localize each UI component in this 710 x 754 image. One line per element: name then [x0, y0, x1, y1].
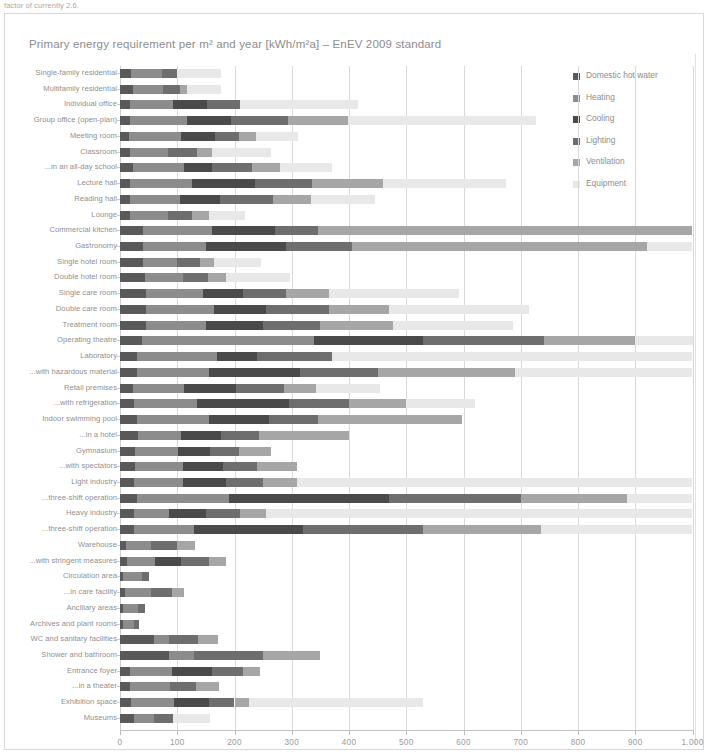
- bar-row[interactable]: [120, 588, 184, 597]
- bar-row[interactable]: [120, 572, 149, 581]
- y-tick: [117, 340, 120, 341]
- bar-row[interactable]: [120, 399, 475, 408]
- bar-row[interactable]: [120, 258, 261, 267]
- x-axis-label: 100: [157, 738, 197, 747]
- bar-segment: [221, 431, 258, 440]
- bar-segment: [349, 399, 406, 408]
- x-axis-label: 800: [558, 738, 598, 747]
- category-label: Operating theatre: [5, 335, 117, 344]
- y-tick: [117, 403, 120, 404]
- bar-row[interactable]: [120, 494, 693, 503]
- bar-segment: [120, 557, 127, 566]
- bar-segment: [146, 305, 215, 314]
- x-tick-400: [349, 730, 350, 735]
- bar-row[interactable]: [120, 509, 693, 518]
- bar-segment: [275, 226, 318, 235]
- bar-row[interactable]: [120, 352, 693, 361]
- bar-segment: [154, 714, 172, 723]
- bar-segment: [209, 557, 226, 566]
- bar-segment: [120, 509, 134, 518]
- bar-segment: [137, 368, 209, 377]
- legend-item[interactable]: Equipment: [573, 178, 703, 200]
- category-label: Commercial kitchen: [5, 225, 117, 234]
- bar-row[interactable]: [120, 321, 513, 330]
- bar-row[interactable]: [120, 132, 298, 141]
- bar-segment: [142, 336, 314, 345]
- bar-segment: [259, 431, 349, 440]
- legend-label: Domestic hot water: [586, 70, 658, 80]
- bar-segment: [289, 399, 349, 408]
- bar-row[interactable]: [120, 478, 693, 487]
- bar-row[interactable]: [120, 242, 693, 251]
- bar-segment: [174, 698, 208, 707]
- bar-row[interactable]: [120, 462, 297, 471]
- bar-segment: [134, 525, 194, 534]
- bar-segment: [212, 148, 270, 157]
- bar-segment: [303, 525, 423, 534]
- bar-row[interactable]: [120, 620, 139, 629]
- bar-segment: [135, 447, 179, 456]
- bar-row[interactable]: [120, 336, 693, 345]
- bar-segment: [423, 525, 540, 534]
- bar-row[interactable]: [120, 667, 260, 676]
- y-tick: [117, 167, 120, 168]
- bar-row[interactable]: [120, 415, 462, 424]
- bar-row[interactable]: [120, 714, 210, 723]
- y-tick: [117, 639, 120, 640]
- bar-row[interactable]: [120, 431, 349, 440]
- bar-row[interactable]: [120, 179, 506, 188]
- x-axis-label: 600: [444, 738, 484, 747]
- bar-segment: [329, 289, 459, 298]
- bar-segment: [120, 635, 154, 644]
- bar-row[interactable]: [120, 273, 290, 282]
- bar-row[interactable]: [120, 116, 536, 125]
- legend-item[interactable]: Cooling: [573, 113, 703, 135]
- bar-row[interactable]: [120, 368, 693, 377]
- bar-segment: [145, 273, 183, 282]
- x-axis-label: 0: [100, 738, 140, 747]
- bar-row[interactable]: [120, 211, 245, 220]
- bar-segment: [123, 572, 141, 581]
- legend-item[interactable]: Heating: [573, 92, 703, 114]
- category-label: ...three-shift operation: [5, 493, 117, 502]
- bar-segment: [206, 509, 240, 518]
- category-label: Lounge: [5, 210, 117, 219]
- legend-item[interactable]: Domestic hot water: [573, 70, 703, 92]
- bar-row[interactable]: [120, 195, 375, 204]
- bar-row[interactable]: [120, 604, 145, 613]
- bar-row[interactable]: [120, 85, 221, 94]
- bar-row[interactable]: [120, 148, 271, 157]
- bar-row[interactable]: [120, 384, 380, 393]
- bar-row[interactable]: [120, 525, 693, 534]
- bar-segment: [220, 195, 273, 204]
- category-label: ...in an all-day school: [5, 162, 117, 171]
- bar-row[interactable]: [120, 651, 320, 660]
- bar-row[interactable]: [120, 69, 221, 78]
- bar-segment: [318, 226, 693, 235]
- category-label: Individual office: [5, 99, 117, 108]
- y-tick: [117, 513, 120, 514]
- bar-segment: [143, 242, 206, 251]
- bar-row[interactable]: [120, 698, 423, 707]
- bar-row[interactable]: [120, 541, 195, 550]
- bar-row[interactable]: [120, 163, 332, 172]
- legend-item[interactable]: Lighting: [573, 135, 703, 157]
- bar-row[interactable]: [120, 635, 218, 644]
- y-tick: [117, 372, 120, 373]
- bar-segment: [183, 478, 226, 487]
- bar-row[interactable]: [120, 557, 226, 566]
- bar-row[interactable]: [120, 289, 459, 298]
- legend-item[interactable]: Ventilation: [573, 156, 703, 178]
- category-label: Circulation area: [5, 571, 117, 580]
- bar-row[interactable]: [120, 100, 358, 109]
- bar-segment: [187, 85, 221, 94]
- bar-segment: [249, 698, 424, 707]
- bar-segment: [178, 447, 209, 456]
- bar-row[interactable]: [120, 447, 271, 456]
- x-tick-1000: [693, 730, 694, 735]
- legend-label: Cooling: [586, 113, 614, 123]
- bar-row[interactable]: [120, 226, 693, 235]
- bar-row[interactable]: [120, 305, 529, 314]
- bar-row[interactable]: [120, 682, 219, 691]
- category-label: Retail premises: [5, 383, 117, 392]
